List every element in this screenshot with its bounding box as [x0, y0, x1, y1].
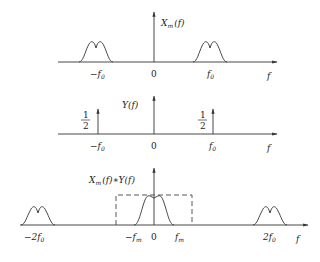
- impulse-weight-pos: 1 2: [198, 110, 207, 131]
- svg-text:1: 1: [83, 110, 89, 120]
- spectrum-bump-pos-f0: [193, 42, 227, 62]
- tick-label-pos-f0: f0: [208, 141, 216, 152]
- panel-carrier-spectrum: Y(f) 1 2 1 2 −f0 0 f0 f: [58, 96, 277, 153]
- spectrum-bump-pos-2f0: [253, 207, 287, 225]
- tick-label-neg-fm: −fm: [125, 232, 142, 243]
- f-axis-label: f: [295, 234, 301, 244]
- panel-convolution-spectrum: Xm(f)∗Y(f) −2f0 −fm 0 fm 2f0 f: [20, 168, 308, 244]
- spectrum-bump-neg-2f0: [21, 207, 55, 225]
- svg-text:2: 2: [200, 121, 206, 131]
- spectrum-bump-neg-f0: [79, 42, 113, 62]
- tick-label-zero: 0: [151, 141, 157, 151]
- tick-label-neg-f0: −f0: [90, 69, 105, 80]
- tick-label-zero: 0: [151, 69, 157, 79]
- tick-label-pos-f0: f0: [206, 69, 214, 80]
- impulse-weight-neg: 1 2: [81, 110, 90, 131]
- f-axis-label: f: [266, 143, 272, 153]
- y-axis-label: Xm(f)∗Y(f): [88, 175, 135, 186]
- tick-label-neg-2f0: −2f0: [24, 232, 45, 243]
- tick-label-pos-2f0: 2f0: [262, 232, 276, 243]
- y-axis-label: Y(f): [122, 100, 139, 110]
- panel-modulated-spectrum: Xm(f) −f0 0 f0 f: [58, 12, 277, 81]
- f-axis-label: f: [266, 71, 272, 81]
- svg-text:2: 2: [83, 121, 89, 131]
- tick-label-neg-f0: −f0: [90, 141, 105, 152]
- svg-text:1: 1: [200, 110, 206, 120]
- y-axis-label: Xm(f): [160, 18, 185, 29]
- frequency-spectra-diagram: Xm(f) −f0 0 f0 f Y(f) 1 2 1 2 −f0 0 f0 f…: [0, 0, 320, 262]
- tick-label-pos-fm: fm: [174, 232, 184, 243]
- tick-label-zero: 0: [151, 232, 157, 242]
